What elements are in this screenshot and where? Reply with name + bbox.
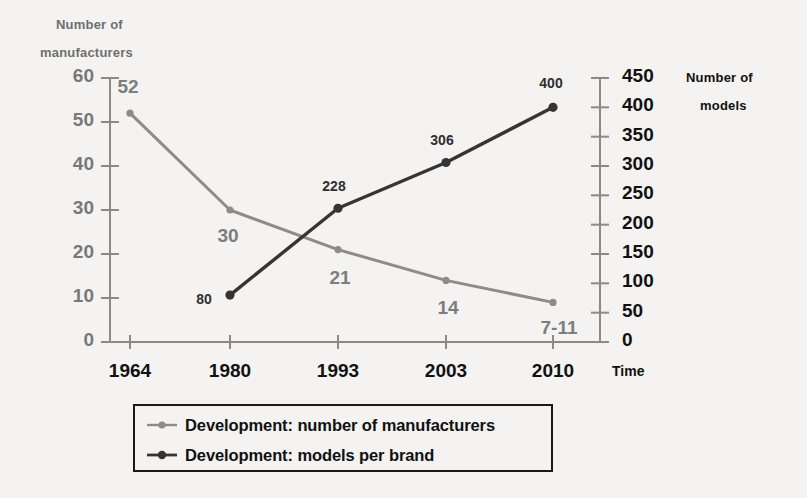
data-point-label: 80	[196, 291, 212, 307]
legend-item-manufacturers[interactable]: Development: number of manufacturers	[135, 410, 551, 440]
data-point-label: 30	[217, 225, 238, 247]
data-point-label: 14	[437, 297, 458, 319]
chart-canvas: Number of manufacturers Number of models…	[0, 0, 807, 498]
data-point-label: 52	[117, 76, 138, 98]
data-point-label: 400	[539, 75, 562, 91]
chart-legend: Development: number of manufacturers Dev…	[133, 404, 553, 472]
data-point-label: 306	[430, 132, 453, 148]
circle-line-marker-icon	[145, 448, 179, 462]
circle-line-marker-icon	[145, 418, 179, 432]
data-point-label: 21	[329, 267, 350, 289]
legend-item-models[interactable]: Development: models per brand	[135, 440, 551, 470]
legend-label: Development: number of manufacturers	[185, 416, 495, 435]
data-point-label: 228	[322, 178, 345, 194]
legend-label: Development: models per brand	[185, 446, 434, 465]
data-point-label: 7-11	[541, 317, 578, 339]
